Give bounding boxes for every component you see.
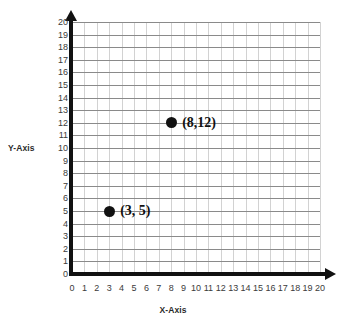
y-tick-label: 14 <box>46 93 68 103</box>
y-tick-label: 8 <box>46 168 68 178</box>
gridline-horizontal <box>72 110 320 111</box>
gridline-horizontal <box>72 98 320 99</box>
gridline-horizontal <box>72 249 320 250</box>
y-tick-label: 13 <box>46 105 68 115</box>
y-tick-label: 4 <box>46 219 68 229</box>
gridline-horizontal <box>72 186 320 187</box>
gridline-horizontal <box>72 47 320 48</box>
x-axis-line <box>69 272 327 276</box>
y-axis-tick-labels: 01234567891011121314151617181920 <box>44 0 68 328</box>
y-tick-label: 7 <box>46 181 68 191</box>
y-axis-title: Y-Axis <box>8 143 35 153</box>
gridline-vertical <box>320 22 321 274</box>
gridline-horizontal <box>72 148 320 149</box>
coordinate-plane-chart: (8,12)(3, 5) 012345678910111213141516171… <box>0 0 346 328</box>
x-axis-arrow-icon <box>325 268 336 280</box>
gridline-horizontal <box>72 60 320 61</box>
gridline-horizontal <box>72 22 320 23</box>
y-tick-label: 19 <box>46 30 68 40</box>
data-point-label: (8,12) <box>182 115 216 131</box>
y-axis-line <box>69 18 73 276</box>
gridline-horizontal <box>72 135 320 136</box>
y-tick-label: 0 <box>46 269 68 279</box>
gridline-horizontal <box>72 198 320 199</box>
y-tick-label: 15 <box>46 80 68 90</box>
data-point-label: (3, 5) <box>120 203 150 219</box>
y-tick-label: 10 <box>46 143 68 153</box>
y-tick-label: 5 <box>46 206 68 216</box>
gridline-horizontal <box>72 85 320 86</box>
x-tick-label: 20 <box>312 283 328 293</box>
y-tick-label: 3 <box>46 231 68 241</box>
y-tick-label: 17 <box>46 55 68 65</box>
gridline-horizontal <box>72 72 320 73</box>
y-tick-label: 2 <box>46 244 68 254</box>
data-point-marker <box>166 117 177 128</box>
y-tick-label: 18 <box>46 42 68 52</box>
gridline-horizontal <box>72 261 320 262</box>
y-tick-label: 1 <box>46 256 68 266</box>
y-tick-label: 11 <box>46 130 68 140</box>
y-tick-label: 6 <box>46 193 68 203</box>
gridline-horizontal <box>72 224 320 225</box>
data-point-marker <box>104 206 115 217</box>
plot-area: (8,12)(3, 5) <box>72 22 320 274</box>
gridline-horizontal <box>72 161 320 162</box>
y-tick-label: 20 <box>46 17 68 27</box>
x-axis-title: X-Axis <box>0 305 346 315</box>
gridline-horizontal <box>72 173 320 174</box>
gridline-horizontal <box>72 35 320 36</box>
y-tick-label: 9 <box>46 156 68 166</box>
y-tick-label: 12 <box>46 118 68 128</box>
x-axis-tick-labels: 01234567891011121314151617181920 <box>0 283 346 295</box>
y-tick-label: 16 <box>46 67 68 77</box>
gridline-horizontal <box>72 236 320 237</box>
